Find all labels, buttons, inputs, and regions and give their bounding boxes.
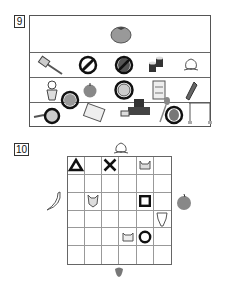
cat-face-icon bbox=[138, 159, 152, 171]
grid-cell[interactable] bbox=[68, 193, 85, 211]
grid-cell[interactable] bbox=[154, 228, 171, 246]
question-10-grid bbox=[67, 156, 172, 265]
sushi-rolls-icon[interactable] bbox=[148, 56, 164, 74]
question-number-9: 9 bbox=[14, 15, 25, 28]
grid-cell[interactable] bbox=[137, 193, 154, 211]
waffle-icon[interactable] bbox=[82, 103, 108, 123]
grid-cell[interactable] bbox=[137, 175, 154, 193]
grid-cell[interactable] bbox=[119, 228, 136, 246]
apple-icon[interactable] bbox=[82, 82, 98, 98]
question-9-row-1 bbox=[30, 16, 210, 53]
corn-icon[interactable] bbox=[184, 80, 198, 102]
tomato-icon[interactable] bbox=[110, 24, 132, 44]
hatchet-icon[interactable] bbox=[38, 56, 64, 76]
grid-cell[interactable] bbox=[154, 246, 171, 264]
square-icon bbox=[139, 195, 151, 207]
grid-cell[interactable] bbox=[102, 157, 119, 175]
grid-cell[interactable] bbox=[137, 246, 154, 264]
question-9-row-2 bbox=[30, 53, 210, 78]
grid-cell[interactable] bbox=[119, 246, 136, 264]
grid-cell[interactable] bbox=[85, 211, 102, 229]
grid-cell[interactable] bbox=[68, 175, 85, 193]
grid-cell[interactable] bbox=[119, 175, 136, 193]
grid-cell[interactable] bbox=[85, 228, 102, 246]
triangle-icon bbox=[69, 159, 83, 171]
question-number-10: 10 bbox=[14, 143, 29, 156]
question-9-row-4 bbox=[30, 103, 210, 128]
grid-cell[interactable] bbox=[137, 211, 154, 229]
grid-cell[interactable] bbox=[68, 246, 85, 264]
grid-cell[interactable] bbox=[137, 157, 154, 175]
grid-cell[interactable] bbox=[119, 157, 136, 175]
grid-cell[interactable] bbox=[85, 193, 102, 211]
peach-icon[interactable] bbox=[182, 56, 200, 74]
grid-cell[interactable] bbox=[154, 175, 171, 193]
grid-cell[interactable] bbox=[119, 211, 136, 229]
raccoon-face-icon bbox=[121, 231, 135, 243]
watermelon-icon-crossed[interactable] bbox=[60, 90, 80, 110]
banana-icon[interactable] bbox=[44, 191, 64, 213]
grid-cell[interactable] bbox=[154, 157, 171, 175]
pepper-icon-crossed[interactable] bbox=[164, 105, 184, 125]
grid-cell[interactable] bbox=[137, 228, 154, 246]
frying-pan-icon-crossed[interactable] bbox=[32, 99, 62, 125]
grid-cell[interactable] bbox=[102, 228, 119, 246]
grid-cell[interactable] bbox=[85, 157, 102, 175]
grid-cell[interactable] bbox=[68, 211, 85, 229]
peach-icon[interactable] bbox=[113, 142, 129, 156]
question-9-frame bbox=[29, 15, 211, 127]
cross-icon bbox=[104, 159, 117, 172]
grid-cell[interactable] bbox=[102, 193, 119, 211]
circle-icon bbox=[138, 230, 151, 243]
apple-icon[interactable] bbox=[176, 193, 192, 211]
bulldozer-icon[interactable] bbox=[120, 97, 152, 119]
grid-cell[interactable] bbox=[85, 246, 102, 264]
grid-cell[interactable] bbox=[119, 193, 136, 211]
grid-cell[interactable] bbox=[85, 175, 102, 193]
grid-cell[interactable] bbox=[102, 175, 119, 193]
banana-icon-crossed[interactable] bbox=[78, 55, 98, 75]
grid-cell[interactable] bbox=[154, 193, 171, 211]
grid-cell[interactable] bbox=[68, 228, 85, 246]
grid-cell[interactable] bbox=[154, 211, 171, 229]
grid-cell[interactable] bbox=[68, 157, 85, 175]
grid-cell[interactable] bbox=[102, 211, 119, 229]
grid-cell[interactable] bbox=[102, 246, 119, 264]
giraffe-face-icon bbox=[155, 211, 169, 227]
fox-face-icon bbox=[87, 194, 99, 208]
eggplant-icon-crossed[interactable] bbox=[114, 55, 134, 75]
high-bar-icon[interactable] bbox=[188, 101, 212, 125]
strawberry-icon[interactable] bbox=[114, 266, 124, 278]
